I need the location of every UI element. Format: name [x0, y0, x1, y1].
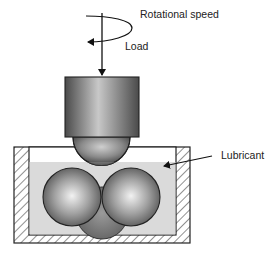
bottom-ball-left — [43, 168, 101, 226]
lubricant-label: Lubricant — [221, 149, 264, 161]
spindle — [65, 77, 139, 137]
four-ball-tester-diagram — [0, 0, 277, 258]
bottom-ball-right — [102, 168, 160, 226]
load-label: Load — [125, 40, 148, 52]
rotation-arrow — [86, 16, 132, 42]
rotational-speed-label: Rotational speed — [140, 8, 219, 20]
